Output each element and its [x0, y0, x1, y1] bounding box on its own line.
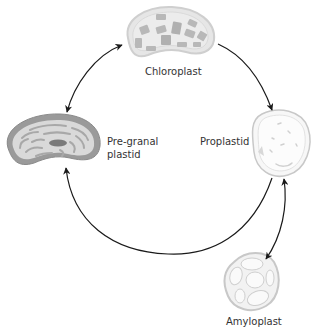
chloroplast-icon — [128, 7, 215, 56]
chloroplast-label: Chloroplast — [145, 66, 202, 78]
plastid-cycle-diagram — [0, 0, 317, 334]
proplastid-label: Proplastid — [200, 136, 249, 148]
arrow-proplastid-pregranal — [66, 168, 272, 254]
pre-granal-label-line2: plastid — [107, 149, 141, 161]
arrow-chloroplast-pregranal — [67, 45, 122, 112]
arrow-proplastid-amyloplast — [266, 179, 285, 259]
proplastid-icon — [252, 110, 309, 176]
amyloplast-label: Amyloplast — [226, 316, 282, 328]
arrow-chloroplast-proplastid — [218, 44, 272, 110]
pre-granal-label-line1: Pre-granal — [107, 136, 158, 148]
pre-granal-plastid-icon — [7, 114, 100, 165]
amyloplast-icon — [225, 253, 279, 310]
